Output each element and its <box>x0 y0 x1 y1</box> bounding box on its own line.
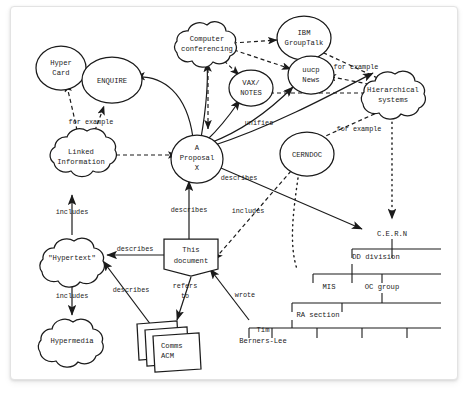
edge-proposal-to-enquire <box>135 77 193 138</box>
node-linked-information[interactable]: Linked Information <box>50 129 116 177</box>
node-cerndoc[interactable]: CERNDOC <box>280 132 334 176</box>
edge-conferencing-to-uucp <box>234 50 291 69</box>
org-tree-label-mis: MIS <box>323 283 336 291</box>
edge-cerndoc-to-orgtree <box>292 178 298 269</box>
org-tree-label-oc-group: OC group <box>365 283 400 291</box>
node-hyper-card-label-1: Hyper <box>50 59 72 67</box>
edge-label-for-example-upper-right: for example <box>334 63 379 71</box>
node-computer-conferencing[interactable]: Computer conferencing <box>174 22 236 67</box>
edge-label-describes-papers: describes <box>113 286 150 294</box>
node-paper-stack[interactable]: etc Comms ACM <box>137 321 201 372</box>
node-ibm-grouptalk[interactable]: IBM GroupTalk <box>277 16 331 60</box>
node-this-document-label-2: document <box>174 257 209 265</box>
node-a-proposal-x-label-2: Proposal <box>180 154 215 162</box>
node-vax-notes-label-1: VAX/ <box>242 79 259 87</box>
org-tree-bracket-4 <box>249 320 441 338</box>
node-hypertext[interactable]: "Hypertext" <box>40 238 105 287</box>
node-linked-information-label-1: Linked <box>68 148 94 156</box>
node-uucp-news-label-1: uucp <box>302 66 319 74</box>
screenshot-root: Hyper Card ENQUIRE Linked Information <box>0 0 472 398</box>
edge-label-describes-proposal: describes <box>171 206 208 214</box>
edge-cerndoc-to-thisdoc <box>214 171 291 260</box>
org-tree-label-ra-section: RA section <box>296 311 339 319</box>
org-tree-bracket-2 <box>313 264 441 283</box>
edge-label-includes-hypermedia: includes <box>56 292 89 300</box>
edge-label-describes-cerndoc: describes <box>221 174 258 182</box>
node-hyper-card-label-2: Card <box>52 69 69 77</box>
org-tree-bracket-3 <box>292 293 441 312</box>
node-this-document-label-1: This <box>182 246 199 254</box>
node-this-document[interactable]: This document <box>164 239 218 276</box>
org-tree-label-dd-division: DD division <box>352 253 399 261</box>
node-tim-berners-lee-label-2: Berners-Lee <box>239 337 286 345</box>
node-hierarchical-systems-label-1: Hierarchical <box>367 86 419 94</box>
edge-label-includes-linked: includes <box>56 208 89 216</box>
node-ibm-grouptalk-label-1: IBM <box>298 29 311 37</box>
node-hypermedia-label: Hypermedia <box>50 337 94 345</box>
node-hypermedia[interactable]: Hypermedia <box>38 319 103 367</box>
node-computer-conferencing-label-1: Computer <box>190 35 225 43</box>
node-computer-conferencing-label-2: conferencing <box>181 45 233 53</box>
edge-label-for-example-left: for example <box>69 118 114 126</box>
node-uucp-news-label-2: News <box>302 76 319 84</box>
org-tree-root-label: C.E.R.N <box>377 230 407 238</box>
node-enquire-label: ENQUIRE <box>97 77 127 85</box>
www-proposal-diagram: Hyper Card ENQUIRE Linked Information <box>11 7 457 379</box>
paper-front-label-1: Comms <box>161 342 183 350</box>
node-tim-berners-lee-label-1: Tim <box>257 326 270 334</box>
edge-conferencing-to-ibm <box>233 40 277 43</box>
org-tree: C.E.R.N DD division MIS OC group RA sect… <box>249 230 441 338</box>
node-linked-information-label-2: Information <box>57 158 104 166</box>
edge-label-wrote: wrote <box>235 291 255 299</box>
node-hypertext-label: "Hypertext" <box>48 254 95 262</box>
node-hierarchical-systems-label-2: systems <box>378 96 408 104</box>
diagram-card: Hyper Card ENQUIRE Linked Information <box>10 6 458 380</box>
edge-label-for-example-lower-right: for example <box>337 125 382 133</box>
node-hierarchical-systems[interactable]: Hierarchical systems <box>361 71 425 119</box>
node-tim-berners-lee[interactable]: Tim Berners-Lee <box>239 326 286 345</box>
edge-proposal-to-vax <box>207 100 240 140</box>
node-vax-notes[interactable]: VAX/ NOTES <box>229 70 273 106</box>
node-enquire[interactable]: ENQUIRE <box>82 57 142 103</box>
edge-proposal-to-conferencing <box>201 62 207 138</box>
edge-label-includes-proposal: includes <box>232 207 265 215</box>
node-uucp-news[interactable]: uucp News <box>288 56 334 94</box>
node-a-proposal-x-label-1: A <box>195 144 200 152</box>
paper-front-label-2: ACM <box>161 352 174 360</box>
node-a-proposal-x-label-3: X <box>195 164 200 172</box>
node-cerndoc-label: CERNDOC <box>292 151 323 159</box>
node-hyper-card[interactable]: Hyper Card <box>36 46 86 90</box>
node-vax-notes-label-2: NOTES <box>240 89 262 97</box>
node-ibm-grouptalk-label-2: GroupTalk <box>285 39 324 47</box>
node-a-proposal-x[interactable]: A Proposal X <box>171 135 223 183</box>
edge-label-unifies: unifies <box>245 119 274 127</box>
edge-label-describes-hypertext: describes <box>117 245 154 253</box>
edge-label-refers-to-2: to <box>181 292 189 300</box>
edge-label-refers-to-1: refers <box>173 282 197 290</box>
